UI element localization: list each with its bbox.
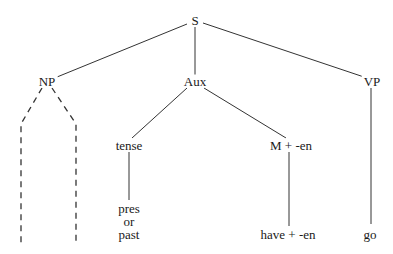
node-np: NP: [37, 75, 58, 88]
syntax-tree-diagram: S NP Aux VP tense M + -en pres or past h…: [0, 0, 393, 254]
node-have-en: have + -en: [259, 228, 318, 241]
tense-value-past: past: [118, 228, 140, 241]
edge-aux-tense: [132, 88, 187, 138]
node-tense: tense: [114, 139, 145, 152]
edge-aux-m-en: [204, 88, 286, 138]
node-vp: VP: [362, 75, 383, 88]
np-dashed-right-branch: [52, 88, 76, 244]
edge-s-np: [57, 24, 187, 77]
edge-s-vp: [203, 23, 364, 77]
node-aux: Aux: [182, 75, 208, 88]
tree-edges: [0, 0, 393, 254]
node-m-en: M + -en: [268, 139, 314, 152]
node-go: go: [362, 228, 379, 241]
node-tense-value: pres or past: [116, 202, 142, 241]
np-dashed-left-branch: [21, 88, 42, 244]
node-s: S: [189, 14, 200, 27]
